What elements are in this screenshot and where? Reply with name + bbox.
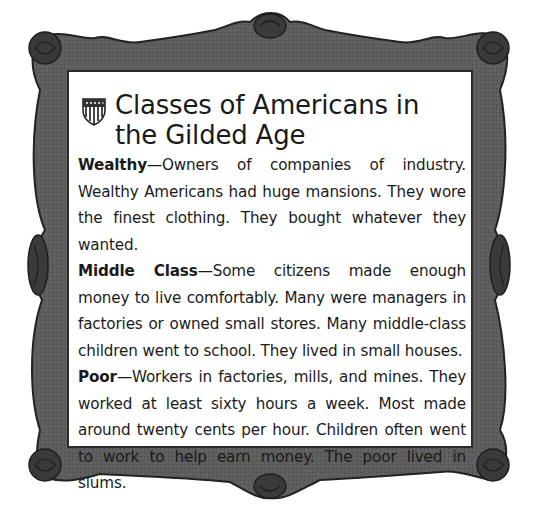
class-descriptions: Wealthy—Owners of companies of industry.…	[78, 152, 466, 497]
entry-poor: Poor—Workers in factories, mills, and mi…	[78, 364, 466, 497]
title-row: Classes of Americans in the Gilded Age	[81, 90, 445, 150]
term-poor: Poor	[78, 368, 117, 386]
entry-middle-class: Middle Class—Some citizens made enough m…	[78, 258, 466, 364]
term-wealthy: Wealthy	[78, 156, 147, 174]
term-middle-class: Middle Class	[78, 262, 198, 280]
content-panel: Classes of Americans in the Gilded Age W…	[67, 70, 473, 448]
card-title: Classes of Americans in the Gilded Age	[115, 90, 445, 150]
description-poor: Workers in factories, mills, and mines. …	[78, 368, 466, 492]
entry-wealthy: Wealthy—Owners of companies of industry.…	[78, 152, 466, 258]
shield-icon	[81, 96, 107, 126]
